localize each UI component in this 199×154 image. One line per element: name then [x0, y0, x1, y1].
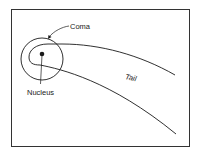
coma-leader-line: [49, 26, 69, 37]
comet-diagram: Coma Nucleus Tail: [0, 0, 199, 154]
diagram-frame: [12, 10, 190, 147]
nucleus-label: Nucleus: [27, 88, 54, 97]
comet-diagram-svg: Coma Nucleus Tail: [0, 0, 199, 154]
coma-arrowhead-icon: [48, 35, 52, 39]
tail-upper-curve: [62, 44, 175, 75]
coma-label: Coma: [70, 22, 91, 31]
tail-label: Tail: [124, 72, 137, 83]
